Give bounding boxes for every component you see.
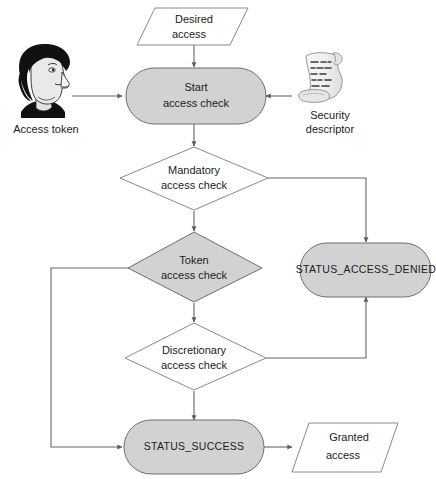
node-desired-access[interactable]: Desired access — [137, 8, 248, 45]
desired-access-label-line2: access — [172, 28, 207, 40]
status-access-denied-label: STATUS_ACCESS_DENIED — [296, 263, 436, 275]
discretionary-access-check-label-line2: access check — [161, 359, 228, 371]
node-discretionary-access-check[interactable]: Discretionary access check — [125, 323, 266, 390]
scroll-icon — [299, 53, 342, 103]
token-access-check-label-line1: Token — [179, 254, 208, 266]
person-head-icon — [19, 44, 70, 118]
access-token-icon-group: Access token — [13, 44, 78, 135]
node-status-access-denied[interactable]: STATUS_ACCESS_DENIED — [296, 243, 436, 297]
security-descriptor-icon-group: Security descriptor — [299, 53, 355, 135]
security-descriptor-caption-line2: descriptor — [306, 123, 355, 135]
node-start-access-check[interactable]: Start access check — [126, 68, 266, 124]
token-access-check-label-line2: access check — [161, 269, 228, 281]
flowchart-diagram: Access token Securi — [0, 0, 436, 479]
discretionary-access-check-label-line1: Discretionary — [162, 344, 227, 356]
mandatory-access-check-label-line1: Mandatory — [168, 164, 220, 176]
edge-token-to-success — [51, 268, 130, 447]
token-access-check-shape — [128, 232, 262, 302]
edge-discretionary-to-denied — [266, 297, 366, 358]
node-granted-access[interactable]: Granted access — [292, 423, 398, 472]
node-mandatory-access-check[interactable]: Mandatory access check — [120, 147, 268, 210]
edge-mandatory-to-denied — [268, 178, 366, 242]
start-access-check-label-line2: access check — [163, 97, 230, 109]
node-token-access-check[interactable]: Token access check — [128, 232, 262, 302]
node-status-success[interactable]: STATUS_SUCCESS — [124, 420, 264, 474]
security-descriptor-caption-line1: Security — [310, 109, 350, 121]
access-token-caption: Access token — [13, 123, 78, 135]
start-access-check-label-line1: Start — [184, 81, 207, 93]
granted-access-label-line1: Granted — [329, 431, 369, 443]
discretionary-access-check-shape — [125, 323, 266, 390]
status-success-label: STATUS_SUCCESS — [144, 440, 245, 452]
granted-access-label-line2: access — [326, 449, 361, 461]
flowchart-canvas: Access token Securi — [0, 0, 436, 479]
mandatory-access-check-label-line2: access check — [161, 179, 228, 191]
desired-access-label-line1: Desired — [175, 13, 213, 25]
